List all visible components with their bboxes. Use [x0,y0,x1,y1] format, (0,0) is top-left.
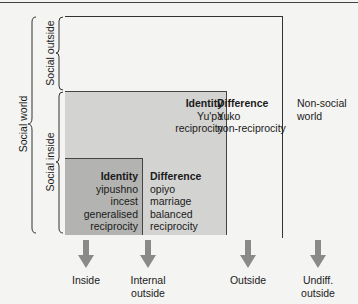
label-line: Inside [51,274,121,287]
label-line: Outside [213,274,283,287]
label-line: Undiff. [283,274,353,287]
arrow-label-inside: Inside [51,274,121,287]
arrow-label-undiff-outside: Undiff. outside [283,274,353,300]
down-arrow-icon [240,240,256,268]
label-line: outside [113,287,183,300]
label-line: Internal [113,274,183,287]
down-arrow-icon [78,240,94,268]
label-line: outside [283,287,353,300]
arrow-label-outside: Outside [213,274,283,287]
arrow-label-internal-outside: Internal outside [113,274,183,300]
arrows [0,0,358,304]
down-arrow-icon [140,240,156,268]
down-arrow-icon [310,240,326,268]
